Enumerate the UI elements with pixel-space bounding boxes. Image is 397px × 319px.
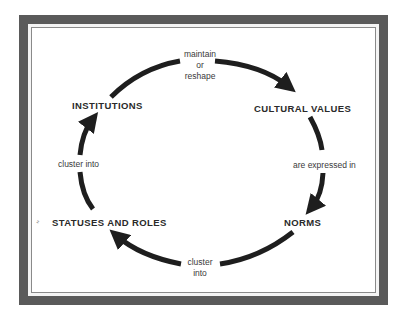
edge-label-top-line3: reshape (180, 71, 220, 82)
arrow-left-bottom (80, 172, 93, 209)
arrow-left-top (80, 120, 92, 155)
edge-label-bottom-line1: cluster (180, 257, 220, 268)
node-cultural-values: CULTURAL VALUES (254, 103, 351, 114)
edge-label-top: maintain or reshape (180, 49, 220, 82)
node-statuses-and-roles: STATUSES AND ROLES (52, 217, 167, 228)
edge-label-bottom: cluster into (180, 257, 220, 279)
arrow-right-top (310, 117, 322, 150)
edge-label-bottom-line2: into (180, 268, 220, 279)
arrow-bottom-left (117, 236, 181, 264)
edge-label-top-line1: maintain (180, 49, 220, 60)
arrow-top-left (111, 61, 180, 97)
arrow-bottom-right (220, 232, 293, 264)
node-institutions: INSTITUTIONS (72, 100, 143, 111)
edge-label-left: cluster into (58, 159, 99, 170)
edge-label-top-line2: or (180, 60, 220, 71)
arrow-top-right (215, 61, 288, 86)
node-norms: NORMS (284, 217, 321, 228)
arrow-right-bottom (312, 173, 323, 207)
edge-label-right: are expressed in (293, 160, 356, 171)
